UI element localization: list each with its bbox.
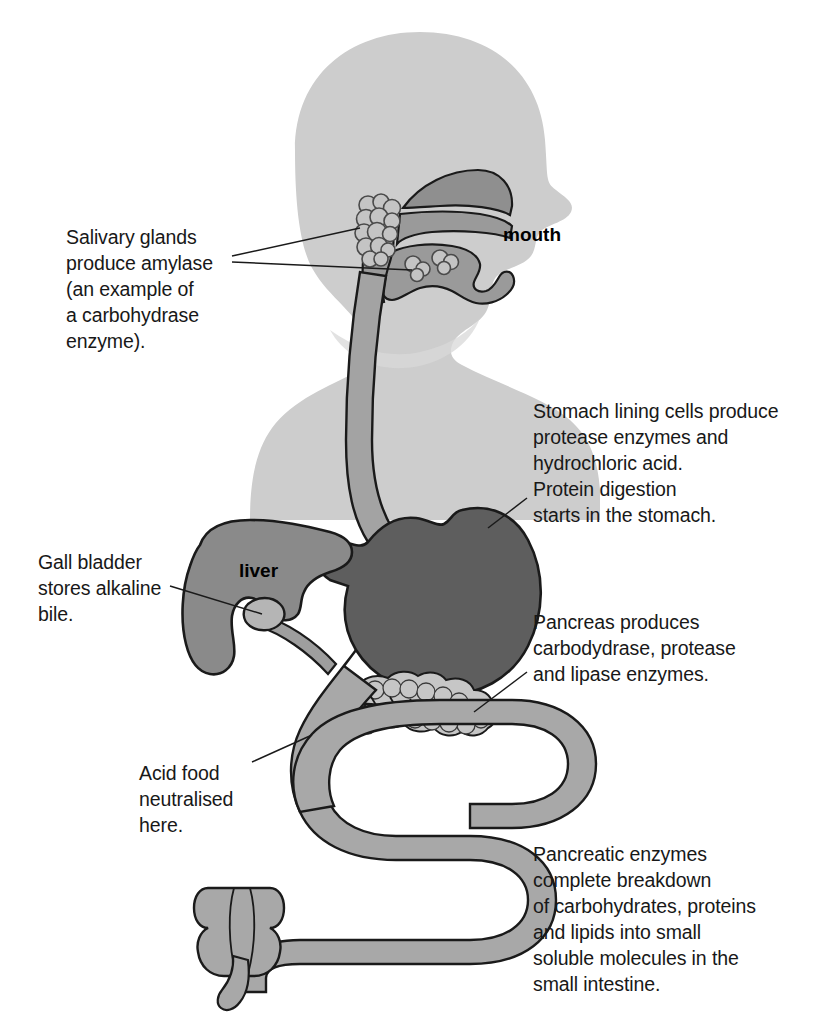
caecum-appendix-group bbox=[194, 888, 284, 1010]
annotation-pancreas: Pancreas produces carbodydrase, protease… bbox=[533, 609, 736, 687]
annotation-salivary-glands: Salivary glands produce amylase (an exam… bbox=[66, 224, 213, 354]
annotation-stomach: Stomach lining cells produce protease en… bbox=[533, 398, 778, 528]
annotation-acid-food: Acid food neutralised here. bbox=[139, 760, 233, 838]
intestine-upper-loop bbox=[293, 700, 596, 828]
annotation-gall-bladder: Gall bladder stores alkaline bile. bbox=[38, 549, 161, 627]
stomach bbox=[315, 508, 541, 695]
gall-bladder bbox=[244, 598, 285, 630]
annotation-pancreatic-enzymes: Pancreatic enzymes complete breakdown of… bbox=[533, 841, 756, 997]
organ-label-mouth: mouth bbox=[503, 224, 561, 246]
organ-label-liver: liver bbox=[239, 560, 278, 582]
